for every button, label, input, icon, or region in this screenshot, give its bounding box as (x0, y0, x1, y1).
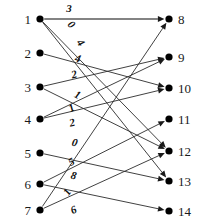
node-label-7: 7 (25, 203, 32, 218)
edge-weight-6-to-14: 8 (70, 169, 78, 182)
node-dot-5[interactable] (36, 149, 43, 156)
edge-weight-3-to-9: 2 (69, 68, 79, 81)
edges-layer (42, 19, 162, 209)
bipartite-graph-figure: 1234567891011121314 3044211205816 (0, 0, 200, 223)
edge-5-to-13 (44, 154, 158, 179)
node-label-5: 5 (25, 146, 32, 161)
node-label-14: 14 (178, 204, 192, 219)
arrowhead-6-to-14 (158, 206, 165, 212)
arrowhead-4-to-10 (158, 88, 165, 94)
edge-weight-4-to-10: 2 (67, 116, 77, 129)
node-label-8: 8 (178, 12, 185, 27)
node-label-2: 2 (25, 46, 32, 61)
node-dot-4[interactable] (36, 115, 43, 122)
node-dot-1[interactable] (36, 15, 43, 22)
edge-weight-5-to-13: 0 (71, 136, 79, 149)
node-dot-6[interactable] (36, 180, 43, 187)
arrowhead-5-to-13 (158, 176, 165, 182)
edge-weight-7-to-8: 1 (60, 186, 73, 197)
node-dot-3[interactable] (36, 83, 43, 90)
edge-7-to-12 (44, 156, 159, 209)
node-label-4: 4 (25, 112, 32, 127)
node-label-9: 9 (178, 50, 185, 65)
edge-2-to-10 (44, 54, 158, 85)
nodes-layer: 1234567891011121314 (25, 12, 192, 219)
edge-3-to-12 (44, 89, 159, 146)
node-dot-14[interactable] (165, 207, 172, 214)
edge-weight-1-to-13: 4 (74, 36, 88, 49)
node-dot-9[interactable] (165, 53, 172, 60)
arrowheads-layer (158, 16, 167, 211)
node-label-12: 12 (178, 144, 191, 159)
node-dot-7[interactable] (36, 206, 43, 213)
arrowhead-2-to-10 (158, 82, 165, 88)
node-dot-8[interactable] (165, 15, 172, 22)
edge-4-to-10 (44, 91, 158, 118)
node-label-10: 10 (178, 81, 191, 96)
edge-weight-2-to-10: 4 (73, 51, 83, 64)
edge-weight-1-to-8: 3 (65, 2, 72, 14)
node-dot-12[interactable] (165, 147, 172, 154)
node-label-13: 13 (178, 174, 191, 189)
edge-weight-1-to-12: 0 (66, 18, 79, 31)
node-label-6: 6 (25, 177, 32, 192)
edge-weight-6-to-11: 5 (66, 155, 77, 168)
node-label-11: 11 (178, 112, 191, 127)
node-label-3: 3 (25, 80, 32, 95)
node-dot-13[interactable] (165, 177, 172, 184)
arrowhead-1-to-8 (158, 16, 165, 22)
edge-7-to-8 (42, 28, 162, 206)
graph-canvas: 1234567891011121314 3044211205816 (0, 0, 200, 223)
edge-6-to-11 (44, 124, 159, 182)
node-dot-10[interactable] (165, 84, 172, 91)
node-label-1: 1 (25, 12, 32, 27)
edge-weight-7-to-12: 6 (68, 203, 78, 216)
arrowhead-7-to-8 (160, 23, 166, 30)
node-dot-11[interactable] (165, 115, 172, 122)
arrowhead-1-to-13 (160, 171, 166, 178)
node-dot-2[interactable] (36, 49, 43, 56)
